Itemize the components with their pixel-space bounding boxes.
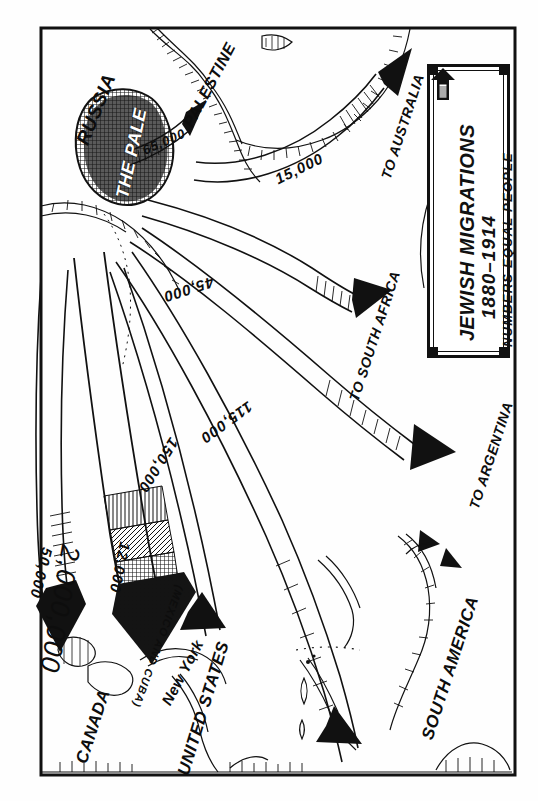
flow-arrow-canada (36, 270, 86, 652)
the-pale-region (76, 89, 174, 205)
migration-map: RUSSIA THE PALE PALESTINE CANADA UNITED … (0, 0, 538, 801)
map-title: JEWISH MIGRATIONS (456, 124, 479, 341)
map-legend-note: NUMBERS EQUAL PEOPLE (500, 152, 515, 347)
flow-arrow-south-africa (142, 200, 392, 318)
flow-arrow-australia (194, 48, 412, 182)
title-cartouche: JEWISH MIGRATIONS 1880–1914 NUMBERS EQUA… (427, 64, 510, 358)
corner-mark-bottom-right (499, 347, 508, 356)
up-arrow-scale-icon (430, 67, 456, 101)
corner-mark-top-right (499, 66, 508, 75)
flow-arrow-united-states (74, 252, 196, 664)
map-title-dates: 1880–1914 (478, 215, 500, 319)
flow-arrow-argentina (130, 228, 456, 470)
corner-mark-bottom-left (429, 347, 438, 356)
coast-arrow-marks (406, 530, 462, 568)
